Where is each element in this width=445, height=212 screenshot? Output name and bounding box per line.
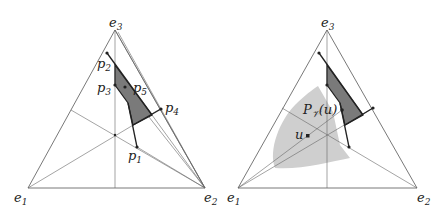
label-e3: e3 xyxy=(321,15,335,32)
centroid xyxy=(114,134,116,136)
label-e1: e1 xyxy=(227,190,240,207)
ray-e2-p1 xyxy=(137,147,205,188)
point-u xyxy=(306,134,310,138)
point-right xyxy=(371,106,374,109)
label-e3: e3 xyxy=(109,15,123,32)
right-simplex-panel: e3 e1 e2 P𝒱(u) u xyxy=(227,15,431,207)
simplex-diagram: e3 e1 e2 p2 p3 p5 p4 p1 e3 e1 e2 P𝒱(u) u xyxy=(0,0,445,212)
label-p3: p3 xyxy=(97,80,111,97)
label-p4: p4 xyxy=(165,100,179,117)
point-left xyxy=(325,83,328,86)
label-projection: P𝒱(u) xyxy=(302,102,337,119)
label-e2: e2 xyxy=(417,190,431,207)
ray-e2-c xyxy=(152,115,205,188)
label-p2: p2 xyxy=(97,56,111,73)
point-p5 xyxy=(123,85,126,88)
point-p3 xyxy=(113,83,116,86)
label-e1: e1 xyxy=(14,190,27,207)
left-simplex-panel: e3 e1 e2 p2 p3 p5 p4 p1 xyxy=(14,15,218,207)
point-p4 xyxy=(159,107,162,110)
point-projection xyxy=(340,108,344,112)
point-p2-start xyxy=(105,51,108,54)
point-top xyxy=(317,51,320,54)
label-p1: p1 xyxy=(128,148,142,165)
label-u: u xyxy=(295,127,303,142)
ray-e2-d xyxy=(145,112,205,188)
point-bottom xyxy=(347,145,350,148)
label-e2: e2 xyxy=(204,190,218,207)
